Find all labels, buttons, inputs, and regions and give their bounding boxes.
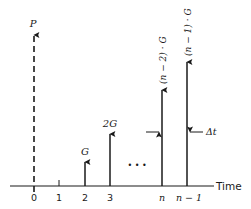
tick-label-0: 0 <box>31 192 37 203</box>
diagram-canvas: Time 0 1 2 3 n n − 1 P G 2G • • • (n − 2… <box>0 0 251 209</box>
cash-flow-diagram: Time 0 1 2 3 n n − 1 P G 2G • • • (n − 2… <box>0 0 251 209</box>
tick-label-1: 1 <box>56 192 62 203</box>
tick-label-n: n <box>159 192 165 203</box>
time-axis-label: Time <box>215 180 242 192</box>
gradient-2g-label: 2G <box>102 118 117 129</box>
tick-label-2: 2 <box>82 192 88 203</box>
tick-label-3: 3 <box>107 192 113 203</box>
gradient-n-minus-2-label: (n − 2) · G <box>158 36 168 84</box>
gradient-g-label: G <box>81 146 89 157</box>
interval-delta-t-label: Δt <box>205 126 217 137</box>
gradient-n-minus-1-label: (n − 1) · G <box>183 8 193 56</box>
tick-label-n-minus-1: n − 1 <box>176 192 202 203</box>
ellipsis: • • • <box>127 161 146 170</box>
present-value-label: P <box>29 18 37 29</box>
